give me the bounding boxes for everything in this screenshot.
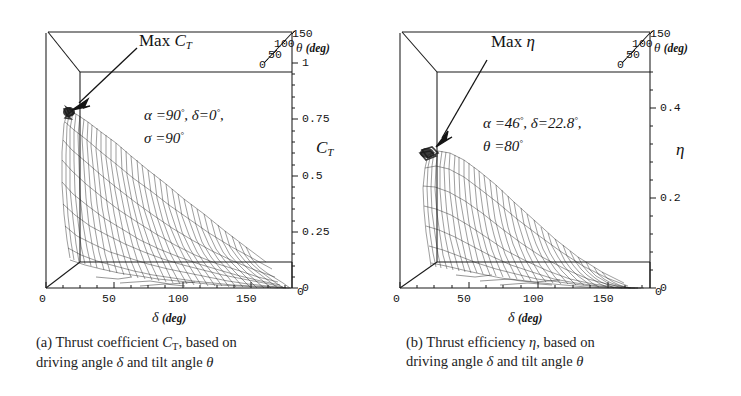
theta-axis-symbol-b: θ (654, 40, 660, 55)
degree-b-3: ° (519, 138, 523, 148)
x-tick-label-a-100: 100 (168, 292, 189, 305)
caption-b: (b) Thrust efficiency η, based on drivin… (406, 333, 716, 370)
parameters-b-line1: α =46°, δ=22.8°, (483, 115, 582, 132)
caption-b-line2-pre: driving angle (406, 353, 487, 369)
caption-a-index: (a) (36, 334, 52, 350)
theta-axis-symbol-a: θ (296, 40, 302, 55)
caption-a-text1: Thrust coefficient (52, 334, 162, 350)
z-axis-ticks-a (292, 63, 298, 288)
alpha-symbol-a: α (144, 107, 152, 123)
caption-a-line2: driving angle δ and tilt angle θ (36, 353, 346, 372)
z-axis-subscript-a: T (327, 146, 333, 158)
caption-a-variable: C (162, 334, 172, 350)
sigma-value-a: =90 (151, 130, 180, 146)
delta-value-a: =0 (199, 107, 217, 123)
z-tick-label-a-075: 0.75 (302, 112, 330, 125)
delta-symbol-b: δ (531, 115, 538, 131)
theta-tick-label-b-150: 150 (650, 27, 671, 40)
theta-tick-label-a-0: 0 (259, 58, 266, 71)
z-axis-symbol-a: C (316, 138, 327, 157)
caption-a-text2: , based on (178, 334, 236, 350)
theta-axis-label-a: θ (deg) (296, 40, 330, 56)
delta-symbol-a: δ (192, 107, 199, 123)
surface-peak-b (420, 148, 434, 158)
max-label-b-variable: η (526, 32, 534, 51)
max-label-b: Max η (491, 32, 535, 52)
caption-a-line2-pre: driving angle (36, 354, 117, 370)
theta-axis-unit-b: (deg) (664, 42, 688, 54)
z-axis-ticks-b (650, 72, 656, 288)
x-axis-unit-a: (deg) (162, 312, 186, 324)
x-tick-label-b-50: 50 (457, 292, 471, 305)
caption-a-line2-mid: and tilt angle (123, 354, 206, 370)
surface-mesh-b (420, 147, 644, 288)
theta-tick-label-a-150: 150 (292, 27, 313, 40)
x-axis-label-b: δ (deg) (508, 310, 542, 326)
x-tick-label-a-50: 50 (102, 292, 116, 305)
z-tick-label-b-0: 0 (660, 281, 667, 294)
z-tick-label-a-1: 1 (302, 56, 309, 69)
caption-b-index: (b) (406, 334, 423, 350)
max-arrow-b (436, 60, 487, 147)
caption-b-text2: , based on (536, 334, 594, 350)
z-axis-label-a: CT (316, 138, 333, 158)
theta-axis-label-b: θ (deg) (654, 40, 688, 56)
x-axis-symbol-b: δ (508, 310, 515, 325)
x-axis-unit-b: (deg) (518, 312, 542, 324)
parameters-b-line2: θ =80° (483, 138, 523, 155)
param-sep-b: , (523, 115, 531, 131)
max-label-a-prefix: Max (139, 31, 174, 50)
max-label-b-prefix: Max (491, 32, 526, 51)
delta-value-b: =22.8 (538, 115, 574, 131)
param-comma-a: , (220, 107, 224, 123)
z-tick-label-a-0: 0 (302, 281, 309, 294)
caption-a-theta: θ (206, 354, 213, 370)
z-tick-label-b-04: 0.4 (660, 101, 681, 114)
caption-b-text1: Thrust efficiency (423, 334, 529, 350)
panel-a-thrust-coefficient: Max CT α =90°, δ=0°, σ =90° 0 50 100 150… (0, 0, 371, 330)
parameters-a-line2: σ =90° (144, 130, 184, 147)
x-axis-symbol-a: δ (152, 310, 159, 325)
x-tick-label-a-150: 150 (236, 292, 257, 305)
x-axis-label-a: δ (deg) (152, 310, 186, 326)
z-tick-label-b-02: 0.2 (660, 191, 681, 204)
caption-a: (a) Thrust coefficient CT, based on driv… (36, 333, 346, 372)
x-tick-label-b-100: 100 (523, 292, 544, 305)
max-arrow-a (72, 48, 137, 110)
x-tick-label-a-0: 0 (39, 292, 46, 305)
alpha-symbol-b: α (483, 115, 491, 131)
x-tick-label-b-150: 150 (593, 292, 614, 305)
theta-value-b: =80 (490, 138, 519, 154)
caption-b-theta: θ (576, 353, 583, 369)
theta-tick-label-b-0: 0 (617, 58, 624, 71)
max-label-a-variable: C (174, 31, 185, 50)
max-label-a-subscript: T (186, 39, 192, 51)
panel-b-thrust-efficiency: Max η α =46°, δ=22.8°, θ =80° 0 50 100 1… (370, 0, 741, 330)
caption-b-line2: driving angle δ and tilt angle θ (406, 352, 716, 371)
degree-a-3: ° (180, 130, 184, 140)
theta-axis-unit-a: (deg) (306, 42, 330, 54)
max-label-a: Max CT (139, 31, 192, 51)
z-tick-label-a-025: 0.25 (302, 225, 330, 238)
z-tick-label-a-05: 0.5 (302, 169, 323, 182)
param-comma-b: , (578, 115, 582, 131)
alpha-value-a: =90 (152, 107, 181, 123)
x-tick-label-b-0: 0 (393, 292, 400, 305)
caption-b-line2-mid: and tilt angle (493, 353, 576, 369)
figure-container: Max CT α =90°, δ=0°, σ =90° 0 50 100 150… (0, 0, 741, 396)
x-axis-ticks-a (46, 282, 285, 288)
caption-a-line1: (a) Thrust coefficient CT, based on (36, 333, 346, 353)
alpha-value-b: =46 (491, 115, 520, 131)
parameters-a-line1: α =90°, δ=0°, (144, 107, 224, 124)
z-axis-label-b: η (676, 140, 684, 160)
param-sep-a: , (184, 107, 192, 123)
caption-b-line1: (b) Thrust efficiency η, based on (406, 333, 716, 352)
